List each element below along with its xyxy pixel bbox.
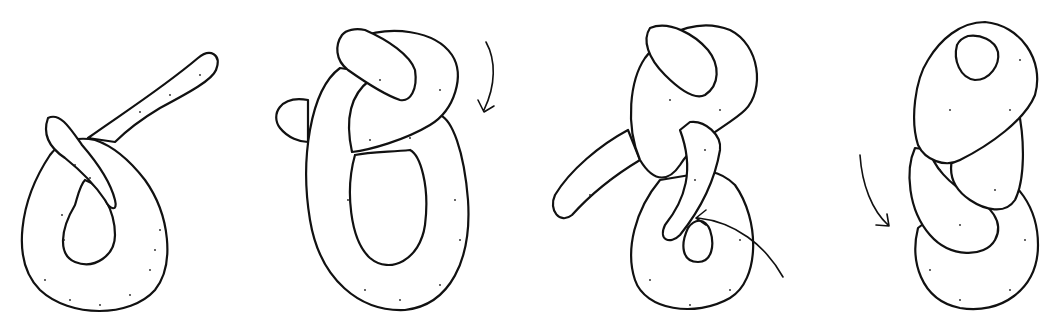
dough-knot-diagram: Shaping a dough knot Form a loop, crossi… — [0, 0, 1055, 328]
step-1-illustration — [0, 0, 260, 328]
step-4: Finished twisted knot — [820, 0, 1055, 328]
arrow-clockwise-down — [478, 42, 494, 112]
arrow-curved-down — [860, 155, 889, 226]
step-1: Form a loop, crossing one end over — [0, 0, 260, 328]
step-3-illustration — [530, 0, 800, 328]
step-2: Wrap the long end over and around the lo… — [260, 0, 520, 328]
step-4-illustration — [820, 0, 1055, 328]
step-2-illustration — [260, 0, 520, 328]
step-3: Tuck the end up through the lower loop — [530, 0, 800, 328]
